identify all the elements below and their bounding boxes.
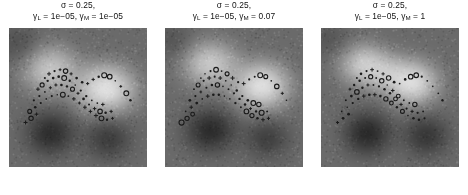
scatter-marker-circle: [70, 87, 74, 91]
scatter-overlay-1: [9, 28, 147, 167]
scatter-marker-circle: [264, 74, 268, 78]
scatter-marker-cross: [101, 102, 105, 106]
scatter-marker-dot: [88, 103, 90, 105]
scatter-marker-cross: [366, 83, 369, 86]
scatter-marker-cross: [35, 112, 38, 115]
panel-title-1: σ = 0.25, γL = 1e−05, γM = 1e−05: [33, 0, 123, 24]
scatter-marker-dot: [396, 106, 398, 108]
panel-title-3: σ = 0.25, γL = 1e−05, γM = 1: [355, 0, 426, 24]
panel-title-line2: γL = 1e−05, γM = 1: [355, 11, 426, 24]
scatter-marker-cross: [362, 94, 366, 98]
gamma-L-value: = 1e−05,: [201, 11, 240, 21]
panel-title-line2: γL = 1e−05, γM = 0.07: [193, 11, 275, 24]
scatter-marker-circle: [413, 102, 417, 106]
scatter-marker-circle: [400, 109, 404, 113]
scatter-marker-circle: [62, 75, 67, 80]
scatter-marker-dot: [233, 92, 235, 94]
scatter-marker-dot: [194, 95, 196, 97]
scatter-marker-dot: [221, 70, 223, 72]
scatter-marker-dot: [361, 86, 363, 88]
scatter-marker-circle: [179, 120, 184, 125]
scatter-marker-dot: [69, 79, 71, 81]
scatter-marker-circle: [214, 67, 219, 72]
scatter-marker-cross: [109, 109, 112, 112]
scatter-marker-circle: [107, 74, 112, 79]
gamma-M-value: = 0.07: [249, 11, 276, 21]
scatter-marker-dot: [368, 93, 371, 96]
scatter-marker-dot: [60, 83, 63, 86]
scatter-marker-dot: [405, 107, 407, 109]
scatter-marker-dot: [236, 89, 238, 92]
scatter-marker-dot: [33, 99, 35, 101]
panel-2: σ = 0.25, γL = 1e−05, γM = 0.07: [165, 0, 303, 167]
scatter-marker-cross: [24, 120, 28, 124]
scatter-marker-dot: [75, 76, 78, 79]
scatter-marker-circle: [60, 92, 65, 97]
scatter-marker-circle: [124, 90, 129, 95]
scatter-marker-cross: [92, 77, 95, 80]
scatter-marker-cross: [59, 68, 62, 71]
scatter-marker-dot: [40, 102, 42, 104]
scatter-marker-cross: [399, 102, 402, 105]
scatter-marker-dot: [412, 117, 415, 120]
scatter-marker-dot: [225, 80, 227, 82]
scatter-marker-circle: [28, 109, 32, 113]
scatter-marker-dot: [230, 84, 232, 86]
scatter-marker-dot: [383, 87, 386, 90]
scatter-overlay-2: [165, 28, 303, 167]
scatter-marker-cross: [391, 88, 395, 92]
scatter-marker-dot: [106, 118, 108, 120]
scatter-marker-dot: [51, 95, 53, 97]
scatter-marker-dot: [244, 103, 247, 106]
scatter-marker-circle: [185, 116, 189, 120]
gamma-M-value: = 1: [411, 11, 426, 21]
scatter-marker-dot: [403, 99, 405, 101]
scatter-marker-circle: [244, 109, 249, 114]
scatter-marker-cross: [261, 117, 265, 121]
scatter-marker-circle: [251, 100, 256, 105]
scatter-marker-cross: [47, 71, 51, 75]
scatter-marker-dot: [237, 81, 239, 83]
scatter-marker-cross: [242, 81, 246, 85]
figure-panel-row: σ = 0.25, γL = 1e−05, γM = 1e−05 σ = 0.2…: [0, 0, 468, 195]
scatter-marker-dot: [375, 77, 377, 79]
scatter-marker-circle: [99, 116, 104, 121]
scatter-marker-dot: [85, 94, 87, 96]
scatter-marker-dot: [211, 83, 214, 86]
scatter-marker-dot: [426, 79, 428, 81]
scatter-marker-dot: [437, 92, 439, 94]
scatter-marker-cross: [381, 72, 384, 75]
scatter-marker-dot: [356, 77, 358, 79]
heatmap-axes-1: [9, 28, 147, 167]
scatter-marker-dot: [222, 85, 224, 87]
scatter-marker-dot: [377, 70, 379, 72]
scatter-marker-cross: [76, 91, 79, 94]
scatter-marker-circle: [250, 113, 254, 117]
scatter-marker-dot: [52, 76, 55, 79]
scatter-marker-cross: [410, 109, 413, 112]
scatter-marker-dot: [407, 114, 409, 116]
scatter-marker-cross: [206, 94, 210, 98]
gamma-M-value: = 1e−05: [89, 11, 123, 21]
scatter-overlay-3: [321, 28, 459, 167]
scatter-marker-dot: [341, 110, 343, 112]
scatter-marker-cross: [218, 76, 222, 80]
scatter-marker-cross: [86, 82, 89, 85]
scatter-marker-circle: [63, 68, 67, 73]
scatter-marker-dot: [44, 91, 46, 93]
scatter-marker-cross: [94, 113, 98, 117]
scatter-marker-circle: [384, 96, 388, 100]
scatter-marker-dot: [218, 93, 220, 95]
scatter-marker-dot: [345, 99, 347, 101]
scatter-marker-cross: [349, 87, 352, 90]
scatter-marker-dot: [188, 98, 191, 101]
scatter-marker-circle: [215, 82, 219, 86]
scatter-marker-dot: [248, 78, 250, 80]
scatter-marker-dot: [57, 75, 60, 78]
scatter-marker-cross: [373, 92, 377, 96]
scatter-marker-cross: [370, 67, 374, 71]
scatter-marker-dot: [80, 89, 82, 91]
scatter-marker-circle: [408, 74, 413, 79]
scatter-marker-circle: [191, 112, 195, 116]
scatter-marker-dot: [96, 102, 98, 104]
